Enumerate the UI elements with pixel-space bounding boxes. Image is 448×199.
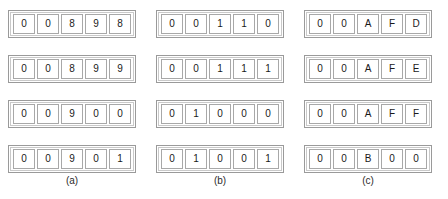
register-cell[interactable]: 0 bbox=[257, 14, 279, 34]
register-cells: 0 0 1 1 1 bbox=[159, 58, 281, 80]
register-cell[interactable]: 8 bbox=[61, 14, 83, 34]
register-cell[interactable]: 1 bbox=[209, 59, 231, 79]
group-caption: (a) bbox=[0, 175, 144, 186]
register-group-a: 0 0 8 9 8 0 0 8 9 9 0 0 9 0 0 bbox=[0, 0, 150, 199]
register-cell[interactable]: E bbox=[405, 59, 427, 79]
register-cell[interactable]: 0 bbox=[109, 104, 131, 124]
register-cell[interactable]: 9 bbox=[85, 59, 107, 79]
register-cell[interactable]: 9 bbox=[61, 149, 83, 169]
register-cell[interactable]: F bbox=[381, 14, 403, 34]
register-row[interactable]: 0 1 0 0 0 bbox=[156, 100, 284, 128]
register-cell[interactable]: 0 bbox=[309, 14, 331, 34]
register-cell[interactable]: D bbox=[405, 14, 427, 34]
register-cells: 0 0 9 0 1 bbox=[11, 148, 133, 170]
register-cell[interactable]: 0 bbox=[209, 149, 231, 169]
register-cell[interactable]: 0 bbox=[309, 59, 331, 79]
register-cell[interactable]: 9 bbox=[109, 59, 131, 79]
register-cell[interactable]: F bbox=[381, 104, 403, 124]
register-cell[interactable]: 1 bbox=[233, 59, 255, 79]
register-row[interactable]: 0 0 9 0 0 bbox=[8, 100, 136, 128]
register-row[interactable]: 0 0 1 1 1 bbox=[156, 55, 284, 83]
figure-canvas: 0 0 8 9 8 0 0 8 9 9 0 0 9 0 0 bbox=[0, 0, 448, 199]
register-cell[interactable]: 0 bbox=[85, 149, 107, 169]
register-cell[interactable]: 0 bbox=[13, 149, 35, 169]
register-cells: 0 1 0 0 0 bbox=[159, 103, 281, 125]
register-cell[interactable]: 0 bbox=[37, 149, 59, 169]
register-cell[interactable]: 0 bbox=[381, 149, 403, 169]
register-cell[interactable]: 0 bbox=[309, 104, 331, 124]
register-cell[interactable]: 0 bbox=[233, 149, 255, 169]
register-row[interactable]: 0 0 8 9 8 bbox=[8, 10, 136, 38]
group-caption: (c) bbox=[296, 175, 440, 186]
register-cell[interactable]: 0 bbox=[13, 59, 35, 79]
register-cells: 0 0 A F E bbox=[307, 58, 429, 80]
register-cells: 0 0 B 0 0 bbox=[307, 148, 429, 170]
register-cell[interactable]: 9 bbox=[61, 104, 83, 124]
register-cell[interactable]: 0 bbox=[405, 149, 427, 169]
register-row[interactable]: 0 0 A F F bbox=[304, 100, 432, 128]
register-cell[interactable]: 0 bbox=[185, 14, 207, 34]
register-cells: 0 0 A F F bbox=[307, 103, 429, 125]
register-cell[interactable]: B bbox=[357, 149, 379, 169]
register-cell[interactable]: 0 bbox=[333, 149, 355, 169]
register-cells: 0 0 8 9 8 bbox=[11, 13, 133, 35]
register-cell[interactable]: 0 bbox=[185, 59, 207, 79]
register-cell[interactable]: A bbox=[357, 104, 379, 124]
register-cells: 0 1 0 0 1 bbox=[159, 148, 281, 170]
register-cell[interactable]: 8 bbox=[61, 59, 83, 79]
register-cell[interactable]: 0 bbox=[13, 14, 35, 34]
register-cell[interactable]: 0 bbox=[37, 59, 59, 79]
register-cell[interactable]: 1 bbox=[109, 149, 131, 169]
register-cell[interactable]: 0 bbox=[161, 14, 183, 34]
register-cell[interactable]: 0 bbox=[161, 149, 183, 169]
register-cell[interactable]: 0 bbox=[13, 104, 35, 124]
register-cell[interactable]: 1 bbox=[257, 59, 279, 79]
register-row[interactable]: 0 1 0 0 1 bbox=[156, 145, 284, 173]
register-group-c: 0 0 A F D 0 0 A F E 0 0 A F F bbox=[296, 0, 446, 199]
register-cell[interactable]: A bbox=[357, 59, 379, 79]
register-cell[interactable]: 0 bbox=[257, 104, 279, 124]
register-cell[interactable]: 0 bbox=[309, 149, 331, 169]
register-cells: 0 0 8 9 9 bbox=[11, 58, 133, 80]
register-row[interactable]: 0 0 A F E bbox=[304, 55, 432, 83]
register-cell[interactable]: 0 bbox=[37, 104, 59, 124]
register-row[interactable]: 0 0 8 9 9 bbox=[8, 55, 136, 83]
register-cell[interactable]: 1 bbox=[257, 149, 279, 169]
register-row[interactable]: 0 0 9 0 1 bbox=[8, 145, 136, 173]
register-cell[interactable]: 8 bbox=[109, 14, 131, 34]
register-cell[interactable]: 0 bbox=[209, 104, 231, 124]
register-cell[interactable]: 0 bbox=[333, 59, 355, 79]
register-cell[interactable]: A bbox=[357, 14, 379, 34]
register-cells: 0 0 1 1 0 bbox=[159, 13, 281, 35]
register-cell[interactable]: F bbox=[381, 59, 403, 79]
register-group-b: 0 0 1 1 0 0 0 1 1 1 0 1 0 0 0 bbox=[148, 0, 298, 199]
register-cell[interactable]: 0 bbox=[233, 104, 255, 124]
register-cell[interactable]: 1 bbox=[233, 14, 255, 34]
register-row[interactable]: 0 0 B 0 0 bbox=[304, 145, 432, 173]
register-row[interactable]: 0 0 A F D bbox=[304, 10, 432, 38]
register-cells: 0 0 9 0 0 bbox=[11, 103, 133, 125]
register-cell[interactable]: 0 bbox=[37, 14, 59, 34]
register-cell[interactable]: F bbox=[405, 104, 427, 124]
register-cells: 0 0 A F D bbox=[307, 13, 429, 35]
register-cell[interactable]: 0 bbox=[161, 104, 183, 124]
register-cell[interactable]: 0 bbox=[161, 59, 183, 79]
group-caption: (b) bbox=[148, 175, 292, 186]
register-cell[interactable]: 0 bbox=[85, 104, 107, 124]
register-cell[interactable]: 0 bbox=[333, 14, 355, 34]
register-cell[interactable]: 0 bbox=[333, 104, 355, 124]
register-cell[interactable]: 9 bbox=[85, 14, 107, 34]
register-row[interactable]: 0 0 1 1 0 bbox=[156, 10, 284, 38]
register-cell[interactable]: 1 bbox=[185, 149, 207, 169]
register-cell[interactable]: 1 bbox=[185, 104, 207, 124]
register-cell[interactable]: 1 bbox=[209, 14, 231, 34]
